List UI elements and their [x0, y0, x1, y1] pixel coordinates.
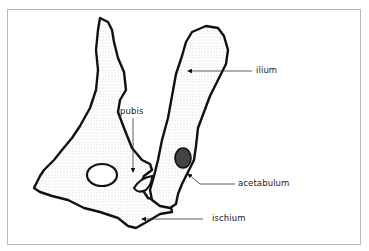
- label-pubis: pubis: [120, 106, 143, 116]
- acetabulum-shape: [175, 148, 191, 168]
- obturator-foramen: [87, 164, 117, 186]
- ilium-outline: [150, 26, 228, 208]
- label-acetabulum: acetabulum: [238, 178, 289, 188]
- pelvis-illustration: [0, 0, 369, 251]
- acetabulum-leader: [188, 174, 235, 184]
- label-ischium: ischium: [212, 213, 246, 223]
- label-ilium: ilium: [256, 65, 277, 75]
